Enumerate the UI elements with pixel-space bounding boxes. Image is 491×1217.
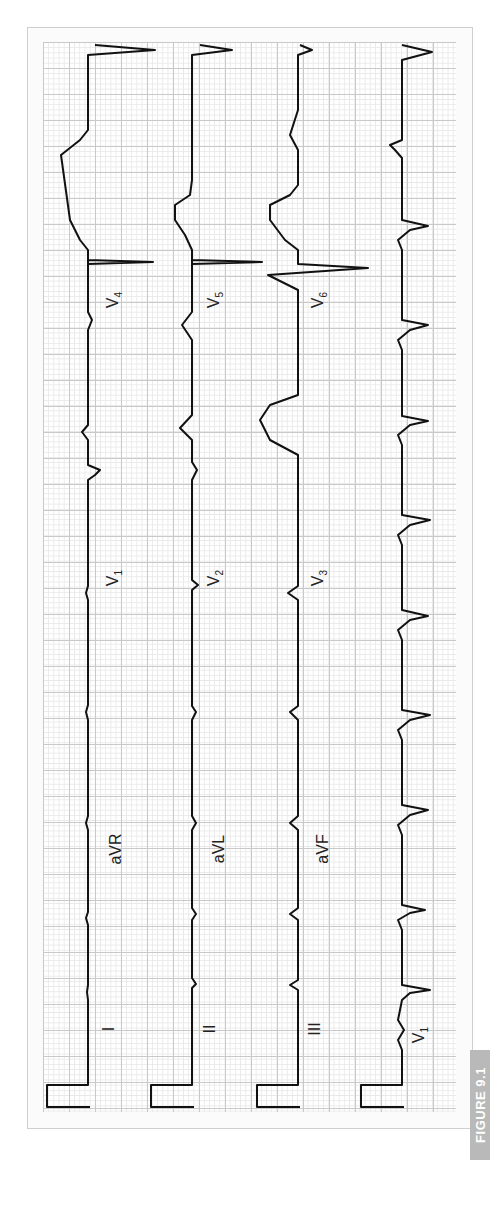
lead-label-V3: V3 [309,570,329,586]
lead-label-III: III [306,1022,324,1035]
lead-label-aVR: aVR [107,833,125,864]
lead-label-aVF: aVF [314,834,332,863]
lead-label-V2: V2 [205,570,225,586]
trace-row1 [47,45,155,1107]
lead-label-I: I [100,1027,118,1031]
lead-label-rhythm-V1: V1 [410,1027,430,1043]
trace-rhythm-v1 [361,45,432,1107]
lead-label-V4: V4 [104,292,124,308]
lead-label-II: II [201,1025,219,1034]
lead-label-V6: V6 [309,292,329,308]
figure-label: FIGURE 9.1 [470,1050,490,1160]
lead-label-V5: V5 [205,292,225,308]
lead-label-V1: V1 [104,570,124,586]
lead-label-aVL: aVL [210,835,228,863]
